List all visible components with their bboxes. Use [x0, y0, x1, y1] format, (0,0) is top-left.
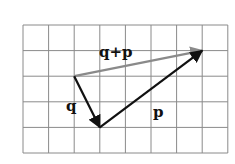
- label-q-plus-p: q+p: [99, 43, 133, 61]
- label-p: p: [153, 103, 164, 121]
- label-q: q: [66, 97, 77, 115]
- vector-diagram: q+p q p: [0, 0, 235, 164]
- vector-q-plus-p: [74, 51, 202, 77]
